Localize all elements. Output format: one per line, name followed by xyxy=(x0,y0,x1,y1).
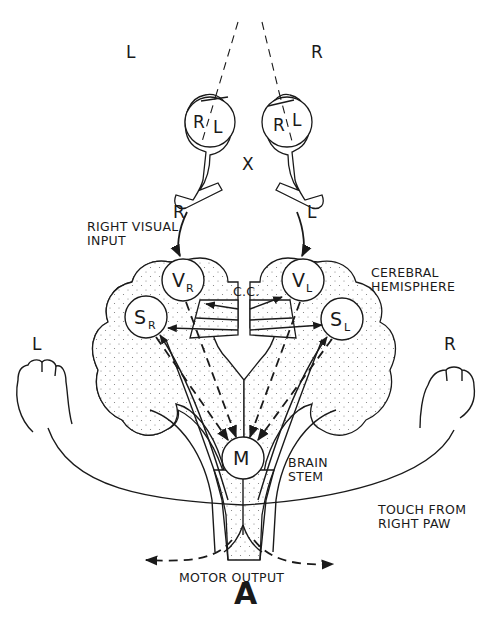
svg-text:V: V xyxy=(172,269,185,291)
left-paw-label: L xyxy=(32,334,42,354)
cerebral-hemisphere-label-line2: HEMISPHERE xyxy=(371,279,455,294)
right-optic-tract-label: L xyxy=(307,202,317,222)
optic-chiasm-split-label: X xyxy=(242,154,254,174)
node-visual-left: V L xyxy=(282,259,324,301)
left-visual-input-arrow xyxy=(297,212,304,256)
right-eye-retina-r: R xyxy=(273,115,285,135)
motor-output-right-arrow xyxy=(254,540,333,564)
svg-text:L: L xyxy=(306,282,313,295)
svg-text:M: M xyxy=(233,447,249,469)
brain-stem-label-line2: STEM xyxy=(288,469,323,484)
corpus-callosum xyxy=(190,300,296,338)
left-visual-field-label: L xyxy=(126,42,136,62)
cerebral-hemisphere-label-line1: CEREBRAL xyxy=(371,265,439,280)
panel-label: A xyxy=(234,576,258,611)
svg-text:R: R xyxy=(186,282,194,295)
sight-lines xyxy=(217,22,279,92)
motor-output-label: MOTOR OUTPUT xyxy=(179,570,284,585)
right-eye-retina-l: L xyxy=(292,110,302,130)
svg-text:R: R xyxy=(148,319,156,332)
svg-text:S: S xyxy=(330,308,342,330)
node-visual-right: V R xyxy=(162,259,204,301)
left-eye-retina-r: R xyxy=(193,112,205,132)
svg-text:V: V xyxy=(292,269,305,291)
right-visual-field-label: R xyxy=(311,42,323,62)
node-motor: M xyxy=(222,437,264,479)
node-somatosensory-left: S L xyxy=(321,298,363,340)
touch-from-right-paw-label-line2: RIGHT PAW xyxy=(378,516,451,531)
touch-from-right-paw-label-line1: TOUCH FROM xyxy=(377,502,466,517)
split-brain-diagram: L R R L R L X R L C. xyxy=(0,0,489,617)
right-visual-input-label-line1: RIGHT VISUAL xyxy=(87,219,179,234)
left-eye: R L xyxy=(175,92,235,208)
right-paw xyxy=(420,367,474,428)
motor-output-left-arrow xyxy=(146,540,232,561)
left-eye-retina-l: L xyxy=(213,117,223,137)
svg-text:S: S xyxy=(134,306,146,328)
right-eye: R L xyxy=(262,92,323,208)
right-paw-label: R xyxy=(444,334,456,354)
brain-stem-label-line1: BRAIN xyxy=(288,455,328,470)
corpus-callosum-label: C.C. xyxy=(233,284,260,299)
node-somatosensory-right: S R xyxy=(125,296,167,338)
svg-text:L: L xyxy=(344,321,351,334)
right-visual-input-label-line2: INPUT xyxy=(87,233,126,248)
